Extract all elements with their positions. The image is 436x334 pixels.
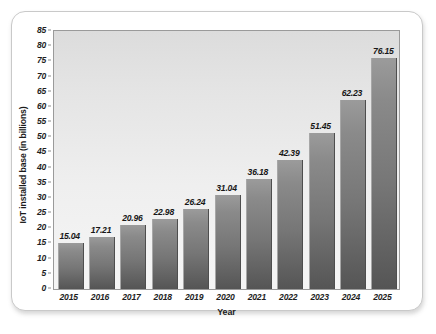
y-tick-mark xyxy=(48,90,51,91)
y-tick-mark xyxy=(48,242,51,243)
bar-value-label-2018: 22.98 xyxy=(154,207,175,217)
y-tick-85: 85 xyxy=(37,25,46,35)
x-tick-2016: 2016 xyxy=(91,292,109,302)
y-tick-mark xyxy=(48,257,51,258)
x-axis-title: Year xyxy=(53,307,400,317)
y-tick-mark xyxy=(48,105,51,106)
y-tick-45: 45 xyxy=(37,146,46,156)
bar-2025[interactable] xyxy=(371,58,397,289)
x-tick-2023: 2023 xyxy=(310,292,328,302)
y-tick-20: 20 xyxy=(37,222,46,232)
x-tick-2021: 2021 xyxy=(248,292,266,302)
bar-value-label-2019: 26.24 xyxy=(185,197,206,207)
bar-2023[interactable] xyxy=(309,133,335,289)
y-tick-35: 35 xyxy=(37,177,46,187)
bar-value-label-2021: 36.18 xyxy=(248,167,269,177)
x-tick-2025: 2025 xyxy=(373,292,391,302)
y-tick-70: 70 xyxy=(37,71,46,81)
y-tick-40: 40 xyxy=(37,162,46,172)
bar-2020[interactable] xyxy=(215,195,241,289)
y-tick-mark xyxy=(48,121,51,122)
bar-2015[interactable] xyxy=(58,243,84,289)
y-tick-15: 15 xyxy=(37,237,46,247)
y-tick-mark xyxy=(48,30,51,31)
y-tick-25: 25 xyxy=(37,207,46,217)
bar-2018[interactable] xyxy=(152,219,178,289)
y-tick-0: 0 xyxy=(41,283,46,293)
bar-2024[interactable] xyxy=(340,100,366,289)
y-tick-mark xyxy=(48,136,51,137)
x-tick-2019: 2019 xyxy=(185,292,203,302)
bar-value-label-2025: 76.15 xyxy=(373,46,394,56)
x-tick-2020: 2020 xyxy=(216,292,234,302)
y-tick-mark xyxy=(48,75,51,76)
y-tick-mark xyxy=(48,227,51,228)
y-tick-50: 50 xyxy=(37,131,46,141)
bar-value-label-2020: 31.04 xyxy=(216,183,237,193)
y-tick-5: 5 xyxy=(41,268,46,278)
y-tick-mark xyxy=(48,60,51,61)
bar-2016[interactable] xyxy=(89,237,115,289)
y-tick-mark xyxy=(48,196,51,197)
bar-value-label-2024: 62.23 xyxy=(342,88,363,98)
bar-value-label-2017: 20.96 xyxy=(122,213,143,223)
x-tick-2015: 2015 xyxy=(60,292,78,302)
plot-area: 15.0417.2120.9622.9826.2431.0436.1842.39… xyxy=(53,30,400,290)
bar-chart: IoT installed base (in billions) 0510152… xyxy=(0,0,436,334)
bar-value-label-2015: 15.04 xyxy=(59,231,80,241)
y-tick-75: 75 xyxy=(37,55,46,65)
bar-value-label-2022: 42.39 xyxy=(279,148,300,158)
bar-value-label-2023: 51.45 xyxy=(310,121,331,131)
y-axis-tick-labels: 0510152025303540455055606570758085 xyxy=(0,30,51,290)
bar-2019[interactable] xyxy=(183,209,209,289)
y-tick-55: 55 xyxy=(37,116,46,126)
x-tick-2018: 2018 xyxy=(154,292,172,302)
y-tick-mark xyxy=(48,166,51,167)
y-tick-mark xyxy=(48,272,51,273)
bar-value-label-2016: 17.21 xyxy=(91,225,112,235)
y-tick-mark xyxy=(48,181,51,182)
y-tick-mark xyxy=(48,212,51,213)
bar-2022[interactable] xyxy=(277,160,303,289)
bar-2021[interactable] xyxy=(246,179,272,289)
y-tick-mark xyxy=(48,288,51,289)
y-tick-30: 30 xyxy=(37,192,46,202)
x-tick-2024: 2024 xyxy=(342,292,360,302)
y-tick-80: 80 xyxy=(37,40,46,50)
y-tick-mark xyxy=(48,151,51,152)
y-tick-60: 60 xyxy=(37,101,46,111)
bar-2017[interactable] xyxy=(120,225,146,289)
y-tick-65: 65 xyxy=(37,86,46,96)
x-tick-2017: 2017 xyxy=(122,292,140,302)
x-tick-2022: 2022 xyxy=(279,292,297,302)
y-tick-mark xyxy=(48,45,51,46)
y-tick-10: 10 xyxy=(37,253,46,263)
